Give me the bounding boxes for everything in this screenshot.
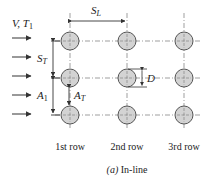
flow-arrows bbox=[12, 38, 31, 114]
a1-dimension bbox=[51, 78, 60, 115]
d-label: D bbox=[146, 72, 155, 84]
row-label-3: 3rd row bbox=[168, 141, 200, 152]
row-label-2: 2nd row bbox=[110, 141, 144, 152]
row-label-1: 1st row bbox=[55, 141, 86, 152]
at-label: AT bbox=[73, 89, 86, 103]
inlet-label: V, T1 bbox=[12, 17, 33, 31]
caption: (a) In-line bbox=[107, 164, 148, 176]
st-label: ST bbox=[37, 52, 48, 66]
st-dimension bbox=[51, 41, 60, 76]
tube-bank-diagram: V, T1 SL ST A1 AT D 1st row 2nd row 3rd … bbox=[0, 0, 216, 185]
sl-label: SL bbox=[91, 4, 102, 18]
a1-label: A1 bbox=[36, 89, 48, 103]
